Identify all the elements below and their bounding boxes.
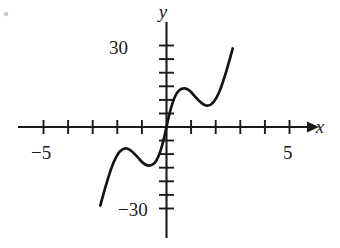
- y-tick-label-30: 30: [109, 37, 128, 58]
- x-tick-label-minus5: −5: [31, 142, 51, 163]
- y-tick-label-minus30: −30: [118, 199, 148, 220]
- x-tick-label-5: 5: [283, 142, 293, 163]
- coordinate-plot: 30 −30 −5 5 x y: [0, 0, 340, 248]
- graph-figure: 30 −30 −5 5 x y: [0, 0, 340, 248]
- x-axis-label: x: [315, 116, 325, 137]
- y-axis-label: y: [157, 1, 168, 22]
- scan-speck: [4, 12, 8, 16]
